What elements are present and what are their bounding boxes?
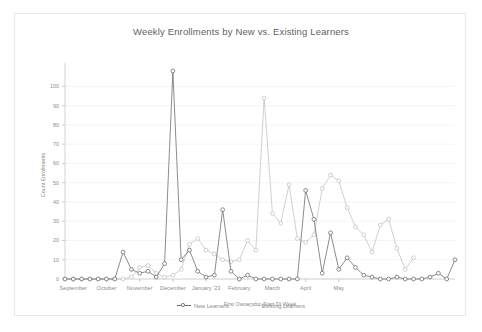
data-point-marker[interactable] xyxy=(403,267,407,271)
data-point-marker[interactable] xyxy=(262,96,266,100)
plot-area: 0102030405060708090100 SeptemberOctoberN… xyxy=(15,14,467,317)
data-point-marker[interactable] xyxy=(171,273,175,277)
legend-item-new-learners[interactable]: New Learners xyxy=(177,302,229,309)
data-point-marker[interactable] xyxy=(304,189,308,193)
x-tick-label: March xyxy=(265,285,281,291)
data-point-marker[interactable] xyxy=(320,271,324,275)
data-point-marker[interactable] xyxy=(362,273,366,277)
data-point-marker[interactable] xyxy=(329,231,333,235)
data-point-marker[interactable] xyxy=(237,277,241,281)
data-point-marker[interactable] xyxy=(420,277,424,281)
data-point-marker[interactable] xyxy=(437,271,441,275)
data-point-marker[interactable] xyxy=(354,225,358,229)
data-point-marker[interactable] xyxy=(378,277,382,281)
data-point-marker[interactable] xyxy=(146,264,150,268)
data-point-marker[interactable] xyxy=(154,275,158,279)
data-point-marker[interactable] xyxy=(428,275,432,279)
data-point-marker[interactable] xyxy=(387,217,391,221)
data-point-marker[interactable] xyxy=(179,267,183,271)
data-point-marker[interactable] xyxy=(345,256,349,260)
data-point-marker[interactable] xyxy=(237,258,241,262)
x-tick-label: November xyxy=(127,285,153,291)
data-point-marker[interactable] xyxy=(412,277,416,281)
data-point-marker[interactable] xyxy=(354,266,358,270)
data-point-marker[interactable] xyxy=(312,233,316,237)
data-point-marker[interactable] xyxy=(362,233,366,237)
data-point-marker[interactable] xyxy=(395,275,399,279)
data-point-marker[interactable] xyxy=(287,277,291,281)
legend-label: Existing Learners xyxy=(262,303,305,309)
data-point-marker[interactable] xyxy=(254,248,258,252)
data-point-marker[interactable] xyxy=(221,258,225,262)
data-point-marker[interactable] xyxy=(295,277,299,281)
data-point-marker[interactable] xyxy=(412,256,416,260)
data-point-marker[interactable] xyxy=(188,248,192,252)
data-point-marker[interactable] xyxy=(329,173,333,177)
data-point-marker[interactable] xyxy=(129,275,133,279)
data-point-marker[interactable] xyxy=(196,237,200,241)
data-point-marker[interactable] xyxy=(121,277,125,281)
data-point-marker[interactable] xyxy=(370,275,374,279)
data-point-marker[interactable] xyxy=(146,269,150,273)
data-point-marker[interactable] xyxy=(387,277,391,281)
data-point-marker[interactable] xyxy=(96,277,100,281)
data-point-marker[interactable] xyxy=(229,269,233,273)
data-point-marker[interactable] xyxy=(254,277,258,281)
data-point-marker[interactable] xyxy=(63,277,67,281)
data-point-marker[interactable] xyxy=(279,277,283,281)
legend-marker-icon xyxy=(245,302,259,309)
y-tick-label: 80 xyxy=(53,122,59,128)
data-point-marker[interactable] xyxy=(138,266,142,270)
data-point-marker[interactable] xyxy=(105,277,109,281)
data-point-marker[interactable] xyxy=(370,250,374,254)
data-point-marker[interactable] xyxy=(88,277,92,281)
data-point-marker[interactable] xyxy=(453,258,457,262)
data-point-marker[interactable] xyxy=(212,273,216,277)
data-point-marker[interactable] xyxy=(337,179,341,183)
data-point-marker[interactable] xyxy=(71,277,75,281)
data-point-marker[interactable] xyxy=(129,267,133,271)
data-point-marker[interactable] xyxy=(403,277,407,281)
data-point-marker[interactable] xyxy=(378,223,382,227)
x-tick-label: October xyxy=(97,285,117,291)
data-point-marker[interactable] xyxy=(163,275,167,279)
data-point-marker[interactable] xyxy=(337,267,341,271)
data-point-marker[interactable] xyxy=(345,206,349,210)
data-point-marker[interactable] xyxy=(163,262,167,266)
data-point-marker[interactable] xyxy=(204,248,208,252)
data-point-marker[interactable] xyxy=(295,237,299,241)
data-point-marker[interactable] xyxy=(262,277,266,281)
data-point-marker[interactable] xyxy=(138,271,142,275)
data-point-marker[interactable] xyxy=(179,258,183,262)
data-point-marker[interactable] xyxy=(312,217,316,221)
legend-item-existing-learners[interactable]: Existing Learners xyxy=(245,302,305,309)
data-point-marker[interactable] xyxy=(271,212,275,216)
data-point-marker[interactable] xyxy=(279,221,283,225)
data-point-marker[interactable] xyxy=(395,246,399,250)
legend-marker-icon xyxy=(177,302,191,309)
y-tick-label: 20 xyxy=(53,237,59,243)
data-point-marker[interactable] xyxy=(204,275,208,279)
data-point-marker[interactable] xyxy=(445,277,449,281)
chart-card: Weekly Enrollments by New vs. Existing L… xyxy=(14,13,466,316)
data-point-marker[interactable] xyxy=(221,208,225,212)
data-point-marker[interactable] xyxy=(304,241,308,245)
data-point-marker[interactable] xyxy=(80,277,84,281)
data-point-marker[interactable] xyxy=(196,269,200,273)
data-point-marker[interactable] xyxy=(171,69,175,73)
series-layer xyxy=(63,69,457,281)
y-tick-label: 90 xyxy=(53,103,59,109)
chart-svg: 0102030405060708090100 SeptemberOctoberN… xyxy=(15,14,467,317)
y-tick-label: 10 xyxy=(53,257,59,263)
data-point-marker[interactable] xyxy=(320,187,324,191)
data-point-marker[interactable] xyxy=(113,277,117,281)
data-point-marker[interactable] xyxy=(271,277,275,281)
data-point-marker[interactable] xyxy=(212,252,216,256)
data-point-marker[interactable] xyxy=(246,239,250,243)
data-point-marker[interactable] xyxy=(188,242,192,246)
x-tick-label: December xyxy=(160,285,186,291)
data-point-marker[interactable] xyxy=(287,183,291,187)
data-point-marker[interactable] xyxy=(121,250,125,254)
data-point-marker[interactable] xyxy=(246,273,250,277)
x-tick-label: January '23 xyxy=(192,285,221,291)
